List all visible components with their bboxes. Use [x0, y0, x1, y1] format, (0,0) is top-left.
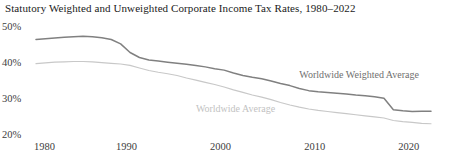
series-label-worldwide-average: Worldwide Average: [196, 103, 275, 114]
chart-container: Statutory Weighted and Unweighted Corpor…: [0, 0, 453, 159]
series-label-worldwide-weighted-average: Worldwide Weighted Average: [299, 69, 419, 80]
